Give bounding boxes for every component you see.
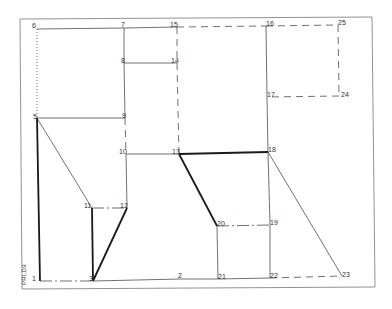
edge-8-9 xyxy=(124,63,125,118)
edge-13-20 xyxy=(179,154,217,226)
node-label-13: 13 xyxy=(172,148,180,155)
node-label-22: 22 xyxy=(270,272,278,279)
node-label-6: 6 xyxy=(32,22,36,29)
edge-20-21 xyxy=(217,226,218,279)
edge-18-19 xyxy=(268,152,270,225)
node-label-7: 7 xyxy=(121,21,125,28)
edge-16-25 xyxy=(266,25,338,26)
edge-3-2 xyxy=(93,279,180,281)
node-label-21: 21 xyxy=(218,273,226,280)
node-label-5: 5 xyxy=(33,113,37,120)
edge-layer xyxy=(37,25,342,281)
diagram-canvas xyxy=(0,0,392,309)
node-label-14: 14 xyxy=(171,57,179,64)
node-label-3: 3 xyxy=(89,275,93,282)
node-label-8: 8 xyxy=(121,57,125,64)
edge-5-11 xyxy=(37,118,92,208)
edge-12-3 xyxy=(93,208,127,281)
edge-18-23 xyxy=(268,152,342,276)
edge-6-7 xyxy=(37,28,124,29)
node-label-12: 12 xyxy=(120,202,128,209)
edge-5-1 xyxy=(37,118,40,281)
node-label-16: 16 xyxy=(266,20,274,27)
node-label-20: 20 xyxy=(217,220,225,227)
edge-16-17 xyxy=(266,26,267,97)
edge-14-13 xyxy=(177,63,179,154)
edge-10-12 xyxy=(126,154,127,208)
edge-22-23 xyxy=(270,276,342,278)
node-label-25: 25 xyxy=(338,19,346,26)
node-label-23: 23 xyxy=(342,271,350,278)
edge-17-18 xyxy=(267,97,268,152)
edge-25-24 xyxy=(338,25,339,96)
node-label-10: 10 xyxy=(119,148,127,155)
side-label: PRLD9 xyxy=(21,264,27,285)
edge-24-17 xyxy=(267,96,339,97)
node-label-19: 19 xyxy=(270,219,278,226)
edge-13-18 xyxy=(179,152,268,154)
node-label-2: 2 xyxy=(178,272,182,279)
node-label-15: 15 xyxy=(170,21,178,28)
node-label-11: 11 xyxy=(84,202,91,209)
edge-11-3 xyxy=(92,208,93,281)
node-label-18: 18 xyxy=(268,146,276,153)
node-label-9: 9 xyxy=(122,112,126,119)
node-label-24: 24 xyxy=(341,91,349,98)
node-label-17: 17 xyxy=(267,91,275,98)
node-label-1: 1 xyxy=(32,275,36,282)
edge-15-16 xyxy=(177,26,266,27)
